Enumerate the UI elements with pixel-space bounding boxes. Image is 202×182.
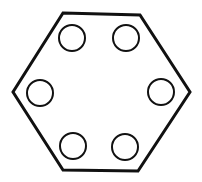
hole-circle (148, 79, 174, 105)
hole-group (27, 25, 174, 160)
hexagon-diagram (0, 0, 202, 182)
hole-circle (27, 80, 53, 106)
diagram-svg (0, 0, 202, 182)
hole-circle (59, 25, 85, 51)
hexagon-outline (13, 13, 190, 171)
hole-circle (113, 25, 139, 51)
hole-circle (112, 134, 138, 160)
hole-circle (60, 133, 86, 159)
